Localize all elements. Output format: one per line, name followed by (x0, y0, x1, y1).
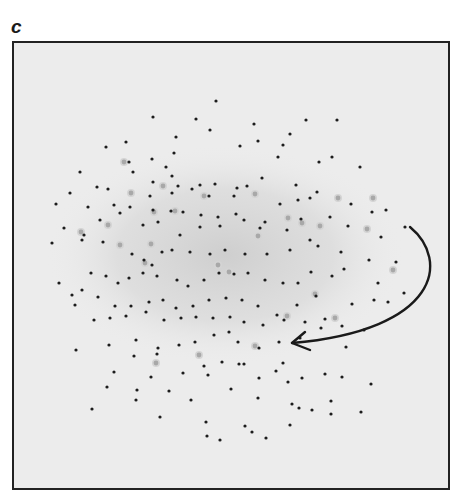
data-point (177, 343, 180, 346)
data-point (156, 346, 159, 349)
data-point (204, 420, 207, 423)
data-point (191, 304, 194, 307)
data-point (294, 183, 297, 186)
data-point (245, 184, 248, 187)
data-point (281, 143, 284, 146)
data-point (164, 165, 167, 168)
data-point (198, 225, 201, 228)
data-point (286, 380, 289, 383)
data-point (149, 375, 152, 378)
data-point (70, 293, 73, 296)
data-point (104, 274, 107, 277)
data-point (95, 185, 98, 188)
faint-spot (197, 353, 202, 358)
data-point (257, 346, 260, 349)
data-point (62, 226, 65, 229)
data-point (340, 375, 343, 378)
data-point (105, 385, 108, 388)
faint-spot (256, 234, 261, 239)
data-point (276, 155, 279, 158)
data-point (295, 303, 298, 306)
data-point (256, 139, 259, 142)
data-point (285, 228, 288, 231)
data-point (170, 248, 173, 251)
data-point (214, 99, 217, 102)
data-point (176, 184, 179, 187)
data-point (134, 338, 137, 341)
data-point (151, 115, 154, 118)
data-point (142, 258, 145, 261)
data-point (234, 212, 237, 215)
data-point (227, 330, 230, 333)
data-point (90, 407, 93, 410)
data-point (148, 194, 151, 197)
data-point (288, 248, 291, 251)
data-point (281, 281, 284, 284)
data-point (127, 276, 130, 279)
data-point (232, 194, 235, 197)
faint-spot (336, 196, 341, 201)
data-point (175, 278, 178, 281)
data-point (172, 151, 175, 154)
faint-spot (371, 196, 376, 201)
data-point (323, 317, 326, 320)
data-point (329, 399, 332, 402)
data-point (158, 415, 161, 418)
data-point (344, 345, 347, 348)
data-point (101, 240, 104, 243)
data-point (50, 241, 53, 244)
data-point (315, 190, 318, 193)
data-point (106, 187, 109, 190)
scatter-plot (0, 0, 461, 492)
data-point (220, 360, 223, 363)
data-point (282, 318, 285, 321)
data-point (263, 220, 266, 223)
data-point (275, 313, 278, 316)
data-point (188, 250, 191, 253)
data-point (78, 170, 81, 173)
data-point (124, 140, 127, 143)
data-point (242, 362, 245, 365)
faint-spot (161, 184, 166, 189)
data-point (129, 304, 132, 307)
data-point (232, 272, 235, 275)
faint-spot (318, 224, 323, 229)
data-point (252, 122, 255, 125)
data-point (170, 174, 173, 177)
data-point (370, 210, 373, 213)
data-point (208, 252, 211, 255)
data-point (73, 303, 76, 306)
faint-spot (154, 361, 159, 366)
data-point (224, 296, 227, 299)
data-point (329, 412, 332, 415)
data-point (127, 160, 130, 163)
data-point (86, 205, 89, 208)
data-point (124, 314, 127, 317)
data-point (376, 281, 379, 284)
data-point (198, 183, 201, 186)
data-point (369, 382, 372, 385)
data-point (74, 348, 77, 351)
data-point (310, 408, 313, 411)
data-point (235, 186, 238, 189)
data-point (194, 117, 197, 120)
data-point (150, 157, 153, 160)
data-point (323, 372, 326, 375)
data-point (213, 182, 216, 185)
data-point (264, 436, 267, 439)
data-point (265, 252, 268, 255)
data-point (240, 298, 243, 301)
data-point (202, 278, 205, 281)
data-point (189, 398, 192, 401)
data-point (218, 438, 221, 441)
data-point (92, 318, 95, 321)
data-point (161, 298, 164, 301)
data-point (274, 369, 277, 372)
data-point (207, 298, 210, 301)
data-point (218, 224, 221, 227)
data-point (155, 352, 158, 355)
data-point (350, 302, 353, 305)
data-point (107, 343, 110, 346)
faint-spot (333, 316, 338, 321)
data-point (80, 288, 83, 291)
